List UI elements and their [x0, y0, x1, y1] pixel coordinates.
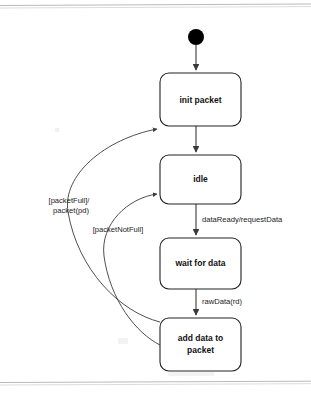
transition-label-packet-full-line2: packet(pd): [53, 206, 89, 215]
scan-artifact-bottom-line-faint: [0, 384, 311, 385]
state-add-data-to-packet-label-line1: add data to: [178, 333, 223, 343]
state-wait-for-data[interactable]: wait for data: [160, 238, 241, 289]
initial-pseudostate-node: [188, 29, 204, 45]
transition-label-raw-data: rawData(rd): [202, 297, 243, 306]
transition-label-packet-not-full: [packetNotFull]: [93, 225, 144, 234]
scan-artifact-bottom-line: [0, 381, 311, 382]
state-wait-for-data-label: wait for data: [174, 258, 225, 268]
state-init-packet[interactable]: init packet: [160, 73, 241, 126]
state-add-data-to-packet[interactable]: add data to packet: [160, 318, 241, 371]
state-init-packet-label: init packet: [179, 95, 221, 105]
state-add-data-to-packet-label-line2: packet: [187, 345, 214, 355]
state-idle[interactable]: idle: [160, 155, 241, 204]
scan-artifact-top-line: [0, 4, 311, 6]
transition-add-data-to-idle: [104, 194, 160, 345]
transition-label-data-ready: dataReady/requestData: [202, 215, 283, 224]
diagram-canvas: init packet idle wait for data add data …: [0, 0, 311, 395]
scan-artifact-top-line-faint: [0, 7, 311, 8]
scan-artifact-speck: [55, 128, 59, 132]
state-diagram: init packet idle wait for data add data …: [0, 0, 311, 395]
scan-artifact-speck-2: [118, 338, 128, 344]
scan-artifact-smudge: [168, 372, 214, 376]
transition-label-packet-full-line1: [packetFull]/: [49, 196, 91, 205]
state-idle-label: idle: [193, 174, 208, 184]
